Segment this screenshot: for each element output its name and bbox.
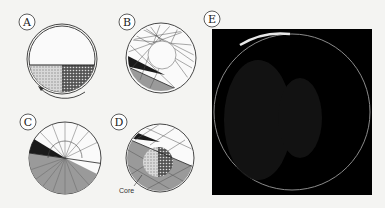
panel-a-letter: A bbox=[22, 16, 32, 29]
figure-svg: A B bbox=[0, 0, 385, 208]
panel-d: D Core bbox=[111, 114, 196, 200]
panel-c-letter: C bbox=[24, 116, 32, 129]
panel-e: E bbox=[204, 11, 372, 195]
panel-c: C bbox=[20, 114, 105, 200]
panel-e-letter: E bbox=[208, 13, 216, 26]
panel-a: A bbox=[19, 14, 97, 98]
panel-b: B bbox=[119, 14, 196, 98]
figure-canvas: A B bbox=[0, 0, 385, 208]
panel-b-letter: B bbox=[123, 16, 131, 29]
core-label: Core bbox=[119, 187, 134, 194]
panel-d-letter: D bbox=[115, 116, 124, 129]
